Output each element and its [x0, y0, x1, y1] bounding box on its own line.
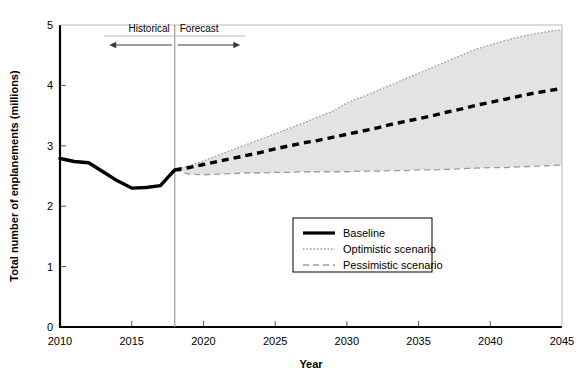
x-axis-title: Year — [299, 358, 323, 370]
y-axis-title: Total number of enplanements (millions) — [8, 70, 20, 282]
enplanements-forecast-chart: 012345 20102015202020252030203520402045 … — [0, 0, 585, 382]
baseline-historical-line — [60, 158, 175, 188]
x-tick-label: 2045 — [550, 335, 574, 347]
legend-label-pessimistic: Pessimistic scenario — [343, 259, 443, 271]
forecast-arrowhead — [233, 42, 240, 48]
chart-svg: 012345 20102015202020252030203520402045 … — [0, 0, 585, 382]
x-tick-label: 2025 — [263, 335, 287, 347]
y-tick-label: 3 — [47, 140, 53, 152]
x-tick-label: 2030 — [335, 335, 359, 347]
legend-label-baseline: Baseline — [343, 227, 385, 239]
y-axis-ticks: 012345 — [47, 19, 66, 333]
x-axis-ticks: 20102015202020252030203520402045 — [48, 321, 574, 347]
y-tick-label: 4 — [47, 79, 53, 91]
x-tick-label: 2015 — [119, 335, 143, 347]
y-tick-label: 0 — [47, 321, 53, 333]
plot-band-group — [175, 30, 562, 175]
historical-annotation-label: Historical — [129, 23, 170, 34]
x-tick-label: 2035 — [406, 335, 430, 347]
legend-label-optimistic: Optimistic scenario — [343, 243, 436, 255]
legend[interactable]: Baseline Optimistic scenario Pessimistic… — [293, 218, 443, 272]
scenario-range-band — [175, 30, 562, 175]
y-tick-label: 2 — [47, 200, 53, 212]
forecast-annotation-label: Forecast — [180, 23, 219, 34]
y-tick-label: 5 — [47, 19, 53, 31]
x-tick-label: 2010 — [48, 335, 72, 347]
historical-arrowhead — [109, 42, 116, 48]
y-tick-label: 1 — [47, 261, 53, 273]
axis-titles: Year Total number of enplanements (milli… — [8, 70, 323, 370]
x-tick-label: 2040 — [478, 335, 502, 347]
x-tick-label: 2020 — [191, 335, 215, 347]
